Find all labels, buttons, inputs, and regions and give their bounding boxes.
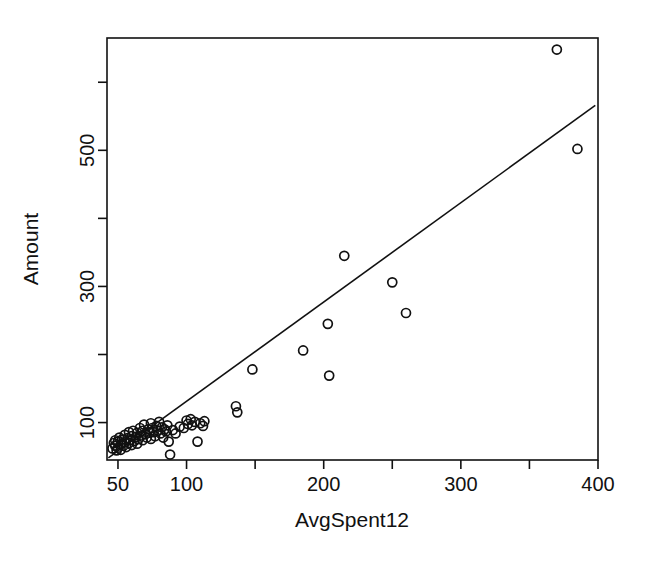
data-point-marker: [323, 319, 332, 328]
chart-canvas: 50100200300400 100300500 AvgSpent12 Amou…: [0, 0, 650, 578]
data-point-marker: [340, 251, 349, 260]
data-point-marker: [231, 402, 240, 411]
plot-frame-box: [107, 38, 598, 460]
data-point-marker: [299, 346, 308, 355]
data-point-marker: [552, 45, 561, 54]
scatter-plot-figure: 50100200300400 100300500 AvgSpent12 Amou…: [0, 0, 650, 578]
x-tick-label: 50: [107, 473, 129, 495]
x-axis-title: AvgSpent12: [295, 508, 409, 531]
data-point-marker: [401, 308, 410, 317]
y-axis-tick-labels: 100300500: [76, 134, 98, 440]
data-point-marker: [166, 450, 175, 459]
y-tick-label: 100: [76, 406, 98, 439]
regression-line-segment: [108, 105, 595, 458]
data-point-marker: [248, 365, 257, 374]
data-point-marker: [325, 371, 334, 380]
x-tick-label: 100: [170, 473, 203, 495]
x-axis-ticks: [118, 460, 598, 469]
regression-line: [108, 105, 595, 458]
x-tick-label: 300: [444, 473, 477, 495]
y-tick-label: 300: [76, 270, 98, 303]
data-point-marker: [233, 408, 242, 417]
x-tick-label: 400: [581, 473, 614, 495]
data-point-marker: [193, 437, 202, 446]
data-point-marker: [573, 144, 582, 153]
data-point-marker: [388, 278, 397, 287]
y-axis-title: Amount: [19, 213, 42, 286]
x-axis-tick-labels: 50100200300400: [107, 473, 615, 495]
data-points: [108, 45, 582, 459]
x-tick-label: 200: [307, 473, 340, 495]
y-tick-label: 500: [76, 134, 98, 167]
y-axis-ticks: [98, 82, 107, 422]
